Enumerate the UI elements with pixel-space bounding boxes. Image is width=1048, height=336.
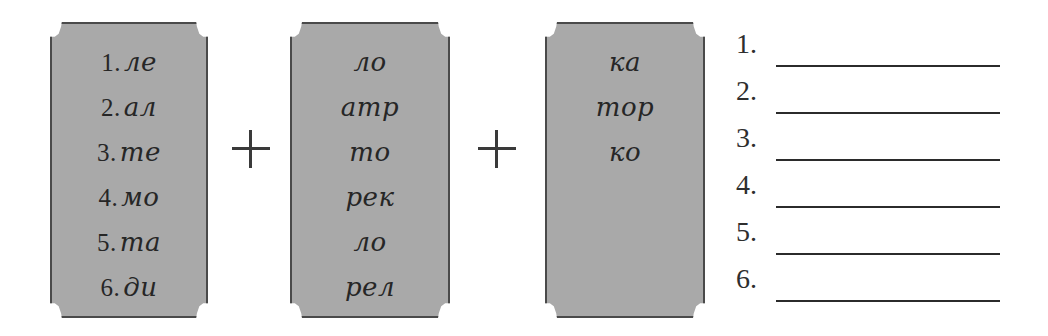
answer-number: 1.: [736, 28, 757, 60]
answer-row[interactable]: 5.: [736, 216, 1016, 263]
answer-number: 2.: [736, 75, 757, 107]
syllable-number: 5.: [97, 220, 117, 265]
syllable-item[interactable]: тор: [596, 85, 654, 130]
syllable-item[interactable]: ка: [609, 40, 641, 85]
syllable-text: та: [120, 220, 161, 265]
plus-icon-vertical-bar: [249, 130, 252, 168]
syllable-item[interactable]: ло: [353, 40, 386, 85]
syllable-text: те: [120, 130, 161, 175]
plus-icon: [478, 130, 516, 168]
answer-write-line[interactable]: [776, 65, 1000, 67]
syllable-item[interactable]: то: [349, 130, 390, 175]
syllable-item[interactable]: ло: [353, 220, 386, 265]
syllable-item[interactable]: 6. ди: [101, 265, 158, 310]
syllable-number: 4.: [99, 175, 119, 220]
syllable-text: тор: [596, 85, 654, 130]
syllable-text: атр: [341, 85, 399, 130]
syllable-text: ко: [609, 130, 641, 175]
answer-lines: 1. 2. 3. 4. 5. 6.: [736, 28, 1016, 318]
syllable-list-3: ка тор ко: [545, 22, 705, 318]
syllable-text: рел: [345, 265, 395, 310]
answer-write-line[interactable]: [776, 300, 1000, 302]
worksheet-canvas: 1. ле 2. ал 3. те 4. мо 5. та 6. ди: [0, 0, 1048, 336]
syllable-text: ал: [124, 85, 157, 130]
syllable-text: ле: [124, 40, 157, 85]
syllable-number: 2.: [101, 85, 121, 130]
answer-row[interactable]: 1.: [736, 28, 1016, 75]
syllable-item[interactable]: 4. мо: [99, 175, 160, 220]
syllable-number: 3.: [97, 130, 117, 175]
answer-row[interactable]: 2.: [736, 75, 1016, 122]
answer-row[interactable]: 3.: [736, 122, 1016, 169]
answer-number: 3.: [736, 122, 757, 154]
syllable-text: ло: [353, 220, 386, 265]
syllable-text: ло: [353, 40, 386, 85]
syllable-text: рек: [345, 175, 394, 220]
syllable-text: мо: [121, 175, 159, 220]
syllable-item[interactable]: 2. ал: [101, 85, 157, 130]
plus-icon-vertical-bar: [495, 130, 498, 168]
syllable-text: ди: [123, 265, 157, 310]
syllable-list-2: ло атр то рек ло рел: [290, 22, 450, 318]
syllable-item[interactable]: 5. та: [97, 220, 161, 265]
answer-row[interactable]: 4.: [736, 169, 1016, 216]
syllable-item[interactable]: 1. ле: [101, 40, 157, 85]
syllable-number: 1.: [101, 40, 121, 85]
answer-number: 5.: [736, 216, 757, 248]
syllable-item[interactable]: рек: [345, 175, 394, 220]
syllable-box-1: 1. ле 2. ал 3. те 4. мо 5. та 6. ди: [50, 22, 208, 318]
syllable-text: то: [349, 130, 390, 175]
syllable-box-2: ло атр то рек ло рел: [290, 22, 450, 318]
answer-number: 4.: [736, 169, 757, 201]
answer-write-line[interactable]: [776, 159, 1000, 161]
answer-write-line[interactable]: [776, 206, 1000, 208]
answer-row[interactable]: 6.: [736, 263, 1016, 310]
syllable-item[interactable]: рел: [345, 265, 395, 310]
syllable-item[interactable]: атр: [341, 85, 399, 130]
syllable-list-1: 1. ле 2. ал 3. те 4. мо 5. та 6. ди: [50, 22, 208, 318]
syllable-box-3: ка тор ко: [545, 22, 705, 318]
syllable-item[interactable]: 3. те: [97, 130, 161, 175]
syllable-text: ка: [609, 40, 641, 85]
answer-write-line[interactable]: [776, 112, 1000, 114]
syllable-item[interactable]: ко: [609, 130, 641, 175]
syllable-number: 6.: [101, 265, 121, 310]
plus-icon: [232, 130, 270, 168]
answer-number: 6.: [736, 263, 757, 295]
answer-write-line[interactable]: [776, 253, 1000, 255]
